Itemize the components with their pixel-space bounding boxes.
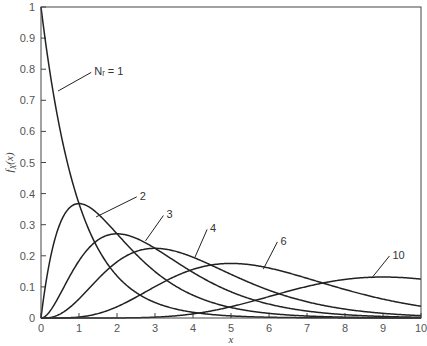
curve-N1 xyxy=(41,7,421,318)
y-tick-label: 0 xyxy=(29,312,35,324)
leader-line xyxy=(372,256,390,278)
chart: 00.10.20.30.40.50.60.70.80.91 0123456789… xyxy=(0,0,427,346)
x-tick-label: 4 xyxy=(190,322,196,334)
curve-label: 4 xyxy=(210,222,216,234)
x-tick-label: 7 xyxy=(304,322,310,334)
y-tick-label: 0.2 xyxy=(20,250,35,262)
x-axis-title: x xyxy=(228,333,234,345)
y-tick-label: 1 xyxy=(29,1,35,13)
y-tick-label: 0.9 xyxy=(20,32,35,44)
curve-label: 3 xyxy=(166,208,172,220)
curves xyxy=(41,7,421,318)
y-tick-label: 0.4 xyxy=(20,188,35,200)
curve-label: 10 xyxy=(393,249,405,261)
curve-N6 xyxy=(41,263,421,318)
x-tick-label: 6 xyxy=(266,322,272,334)
y-tick-label: 0.5 xyxy=(20,157,35,169)
x-tick-label: 10 xyxy=(415,322,427,334)
y-tick-label: 0.1 xyxy=(20,281,35,293)
leader-line xyxy=(263,242,277,269)
curve-label: 2 xyxy=(140,190,146,202)
x-tick-label: 0 xyxy=(38,322,44,334)
curve-N3 xyxy=(41,234,421,318)
curve-label: Nᵣ = 1 xyxy=(94,65,123,77)
y-ticks: 00.10.20.30.40.50.60.70.80.91 xyxy=(20,1,46,324)
leader-line xyxy=(146,215,164,240)
y-tick-label: 0.7 xyxy=(20,94,35,106)
leader-line xyxy=(96,197,137,217)
x-tick-label: 1 xyxy=(76,322,82,334)
x-tick-label: 2 xyxy=(114,322,120,334)
y-tick-label: 0.8 xyxy=(20,63,35,75)
leader-line xyxy=(195,229,207,257)
y-tick-label: 0.6 xyxy=(20,125,35,137)
leader-line xyxy=(58,72,91,91)
x-tick-label: 9 xyxy=(380,322,386,334)
y-tick-label: 0.3 xyxy=(20,219,35,231)
annotations: Nᵣ = 1234610 xyxy=(58,65,405,278)
x-tick-label: 3 xyxy=(152,322,158,334)
plot-frame xyxy=(41,7,421,318)
curve-label: 6 xyxy=(280,235,286,247)
curve-N2 xyxy=(41,204,421,318)
x-tick-label: 8 xyxy=(342,322,348,334)
y-axis-title: fX(x) xyxy=(3,152,18,172)
